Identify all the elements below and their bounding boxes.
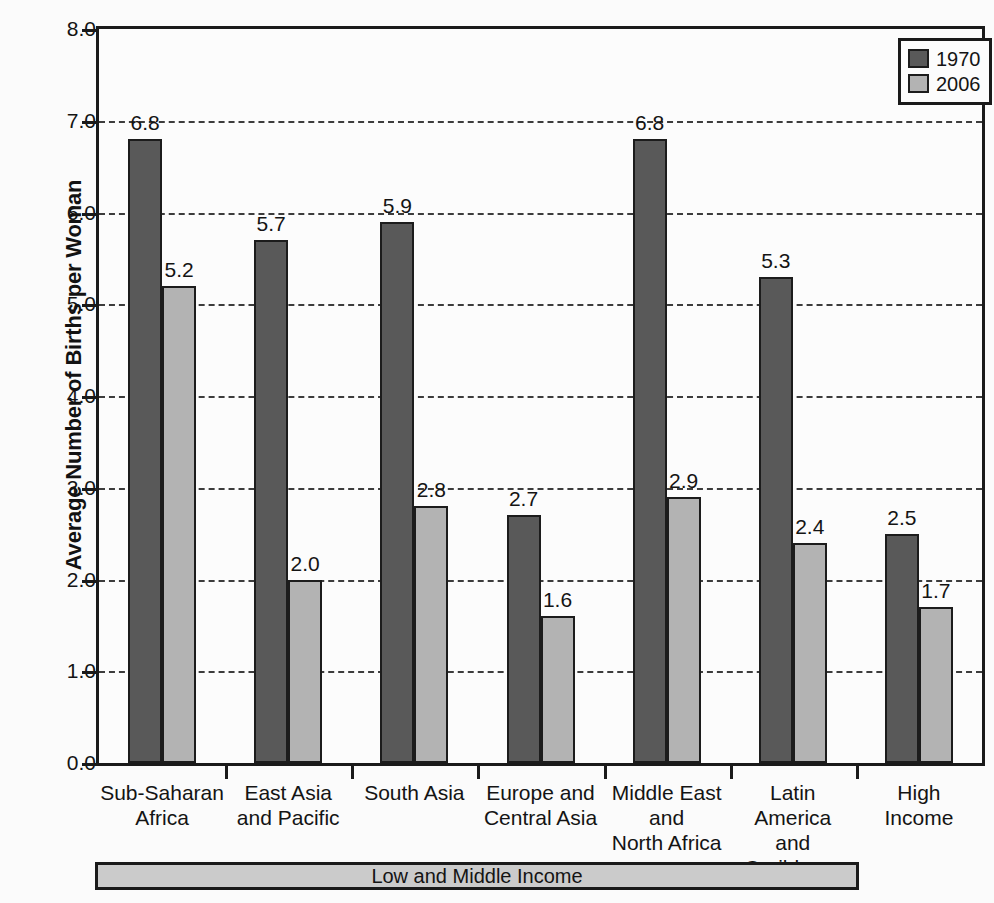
plot-area: 6.85.25.72.05.92.82.71.66.82.95.32.42.51… [96,26,985,766]
bar-value-label: 6.8 [635,111,664,135]
bar-value-label: 5.7 [257,212,286,236]
group-bracket-label: Low and Middle Income [371,865,582,888]
bar-1970-2[interactable] [380,222,414,763]
legend[interactable]: 1970 2006 [898,38,992,105]
x-axis-category-label: Middle EastandNorth Africa [604,780,730,855]
bar-1970-1[interactable] [254,240,288,763]
bar-2006-4[interactable] [667,497,701,763]
bar-1970-5[interactable] [759,277,793,763]
gridline [99,396,982,398]
y-axis-tick-mark [82,580,96,583]
x-axis-tick [604,766,607,779]
legend-label-1970: 1970 [936,49,981,69]
bar-2006-3[interactable] [541,616,575,763]
bar-1970-0[interactable] [128,139,162,763]
bar-value-label: 5.3 [761,249,790,273]
y-axis: 0.01.02.03.04.05.06.07.08.0 [0,26,96,766]
y-axis-tick-mark [82,304,96,307]
gridline [99,304,982,306]
bar-2006-2[interactable] [414,506,448,763]
bar-2006-1[interactable] [288,580,322,764]
y-axis-tick-mark [82,121,96,124]
x-axis-category-label: South Asia [351,780,477,805]
legend-item-2006[interactable]: 2006 [908,71,981,96]
y-axis-tick-mark [82,671,96,674]
y-axis-tick-mark [82,213,96,216]
bar-value-label: 2.5 [887,506,916,530]
bar-value-label: 2.0 [291,552,320,576]
gridline [99,121,982,123]
legend-swatch-2006 [908,74,929,93]
bar-value-label: 2.8 [417,478,446,502]
group-bracket-low-and-middle-income: Low and Middle Income [95,862,859,890]
bar-1970-6[interactable] [885,534,919,763]
bar-value-label: 2.9 [669,469,698,493]
bar-2006-6[interactable] [919,607,953,763]
x-axis-tick [225,766,228,779]
bar-1970-4[interactable] [633,139,667,763]
x-axis-category-label: Europe andCentral Asia [477,780,603,830]
x-axis-category-label: HighIncome [856,780,982,830]
gridline [99,488,982,490]
x-axis-tick [856,766,859,779]
y-axis-tick-mark [82,488,96,491]
x-axis-tick [730,766,733,779]
chart-canvas: Average Number of Births per Woman 0.01.… [0,0,994,903]
bar-value-label: 5.9 [383,194,412,218]
legend-swatch-1970 [908,49,929,68]
x-axis-category-label: East Asiaand Pacific [225,780,351,830]
y-axis-tick-mark [82,763,96,766]
bar-2006-5[interactable] [793,543,827,763]
legend-item-1970[interactable]: 1970 [908,46,981,71]
x-axis-category-label: Sub-SaharanAfrica [99,780,225,830]
gridline [99,580,982,582]
bar-value-label: 5.2 [164,258,193,282]
y-axis-tick-mark [82,396,96,399]
bar-value-label: 2.7 [509,487,538,511]
gridline [99,213,982,215]
y-axis-tick-mark [82,29,96,32]
bar-value-label: 6.8 [130,111,159,135]
x-axis-tick [351,766,354,779]
bar-2006-0[interactable] [162,286,196,763]
bar-value-label: 1.7 [921,579,950,603]
bar-value-label: 1.6 [543,588,572,612]
x-axis-tick [477,766,480,779]
legend-label-2006: 2006 [936,74,981,94]
bar-1970-3[interactable] [507,515,541,763]
bar-value-label: 2.4 [795,515,824,539]
